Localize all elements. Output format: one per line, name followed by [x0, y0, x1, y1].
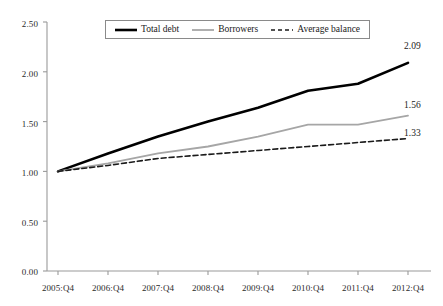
endpoint-label-borrowers: 1.56 [404, 100, 421, 110]
endpoint-label-average-balance: 1.33 [404, 128, 421, 138]
legend-label-borrowers: Borrowers [218, 25, 258, 35]
x-axis-ticks [58, 271, 408, 275]
y-axis-ticks [43, 22, 47, 271]
legend-entry-total-debt: Total debt [115, 25, 179, 35]
chart-legend: Total debt Borrowers Average balance [105, 20, 370, 39]
axis-lines [47, 22, 431, 271]
chart-container: 2.50 2.00 1.50 1.00 0.50 0.00 2005:Q4 20… [0, 0, 443, 306]
legend-label-total-debt: Total debt [141, 25, 179, 35]
legend-label-average-balance: Average balance [297, 25, 360, 35]
legend-swatch-solid-gray-icon [192, 26, 214, 34]
legend-swatch-solid-black-icon [115, 26, 137, 34]
legend-entry-average-balance: Average balance [271, 25, 360, 35]
legend-swatch-dashed-black-icon [271, 26, 293, 34]
legend-entry-borrowers: Borrowers [192, 25, 258, 35]
series-lines [58, 63, 408, 172]
series-line-total-debt [58, 63, 408, 172]
plot-area [0, 0, 443, 306]
endpoint-label-total-debt: 2.09 [404, 41, 421, 51]
series-line-average-balance [58, 139, 408, 172]
